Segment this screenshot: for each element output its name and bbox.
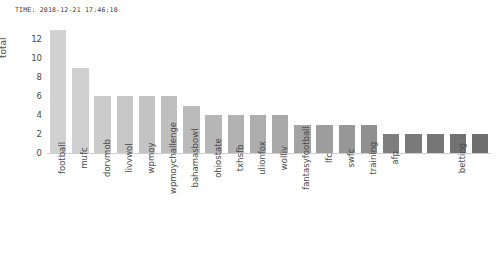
bar[interactable] <box>383 134 399 153</box>
x-tick-label: training <box>369 142 378 175</box>
x-tick-slot: mufc <box>69 156 91 256</box>
bar-slot <box>136 24 158 153</box>
x-tick-slot: swfc <box>336 156 358 256</box>
x-tick-slot: wolliv <box>269 156 291 256</box>
x-tick-slot: wpmoy <box>136 156 158 256</box>
y-axis-title: total <box>0 37 8 58</box>
x-tick-label: football <box>58 142 67 174</box>
bar-slot <box>225 24 247 153</box>
y-tick-label: 8 <box>37 72 42 82</box>
x-tick-slot <box>402 156 424 256</box>
x-tick-label: mufc <box>80 147 89 168</box>
x-tick-label: wpmoychallenge <box>169 122 178 194</box>
bar-slot <box>47 24 69 153</box>
y-axis-ticks: 121086420 <box>22 24 42 153</box>
bar-slot <box>358 24 380 153</box>
x-tick-slot: betting <box>447 156 469 256</box>
x-tick-slot: fantasyfootball <box>291 156 313 256</box>
x-tick-slot: football <box>47 156 69 256</box>
y-tick-label: 10 <box>31 53 42 63</box>
x-tick-slot <box>469 156 491 256</box>
x-tick-label: swfc <box>347 148 356 167</box>
x-tick-label: wpmoy <box>147 143 156 174</box>
bar[interactable] <box>316 125 332 153</box>
plot-area <box>47 24 491 153</box>
bar-slot <box>91 24 113 153</box>
x-tick-slot: ulionfox <box>247 156 269 256</box>
x-tick-label: fantasyfootball <box>302 126 311 190</box>
x-tick-label: lfc <box>325 153 334 163</box>
y-tick-label: 0 <box>37 148 42 158</box>
x-tick-label: dorvmob <box>103 139 112 177</box>
x-tick-label: wolliv <box>280 146 289 170</box>
x-tick-slot: wpmoychallenge <box>158 156 180 256</box>
bar[interactable] <box>472 134 488 153</box>
bar-slot <box>469 24 491 153</box>
x-tick-slot <box>424 156 446 256</box>
x-tick-slot: livvwol <box>114 156 136 256</box>
x-tick-slot: ohiostate <box>202 156 224 256</box>
x-tick-label: ulionfox <box>258 141 267 175</box>
bar[interactable] <box>405 134 421 153</box>
y-tick-label: 4 <box>37 110 42 120</box>
bar[interactable] <box>50 30 66 153</box>
x-tick-label: ohiostate <box>214 138 223 178</box>
x-axis-line <box>47 153 491 154</box>
chart-canvas: TIME: 2018-12-21 17:46:10 total 12108642… <box>0 0 500 260</box>
x-tick-slot: lfc <box>313 156 335 256</box>
bar-slot <box>402 24 424 153</box>
bar-slot <box>447 24 469 153</box>
bar-slot <box>69 24 91 153</box>
y-tick-label: 2 <box>37 129 42 139</box>
x-tick-label: afp <box>391 151 400 165</box>
y-tick-label: 12 <box>31 34 42 44</box>
bar-slot <box>247 24 269 153</box>
bar-series <box>47 24 491 153</box>
bar-slot <box>380 24 402 153</box>
x-tick-label: txhsfb <box>236 145 245 172</box>
x-tick-label: livvwol <box>125 143 134 172</box>
timestamp-label: TIME: 2018-12-21 17:46:10 <box>15 6 118 14</box>
x-axis-ticks: footballmufcdorvmoblivvwolwpmoywpmoychal… <box>47 156 491 256</box>
bar-slot <box>269 24 291 153</box>
bar-slot <box>114 24 136 153</box>
bar[interactable] <box>427 134 443 153</box>
x-tick-slot: bahamasbowl <box>180 156 202 256</box>
x-tick-slot: dorvmob <box>91 156 113 256</box>
bar-slot <box>424 24 446 153</box>
bar[interactable] <box>72 68 88 153</box>
bar-slot <box>313 24 335 153</box>
bar-slot <box>202 24 224 153</box>
x-tick-slot: afp <box>380 156 402 256</box>
bar-slot <box>336 24 358 153</box>
x-tick-label: bahamasbowl <box>191 128 200 187</box>
x-tick-label: betting <box>458 143 467 173</box>
x-tick-slot: training <box>358 156 380 256</box>
y-tick-label: 6 <box>37 91 42 101</box>
x-tick-slot: txhsfb <box>225 156 247 256</box>
